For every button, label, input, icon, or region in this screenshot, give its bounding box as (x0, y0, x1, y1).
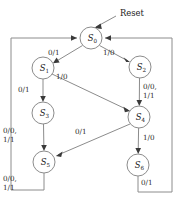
state-sub-S5: 5 (47, 162, 51, 168)
edge-S4-to-S5 (56, 124, 130, 157)
state-node-S2[interactable]: S 2 (129, 56, 151, 78)
state-sub-S3: 3 (46, 113, 50, 119)
edge-S1-to-S3 (40, 79, 46, 102)
edge-S3-to-S5 (41, 124, 47, 151)
edge-S6-to-S0-arrowhead (105, 35, 111, 41)
edge-label-S3-to-S5-line2: 1/1 (3, 135, 15, 144)
state-node-S0[interactable]: S 0 (80, 27, 102, 49)
state-sub-S4: 4 (142, 117, 146, 123)
edge-label-S2-to-S4-line1: 0/0, (143, 82, 157, 91)
edge-S5-to-S0-arrowhead (71, 35, 77, 41)
edge-label-S5-to-S0-line1: 0/0, (3, 174, 17, 183)
state-sub-S1: 1 (46, 68, 50, 74)
edge-label-S6-to-S0: 0/1 (141, 178, 153, 187)
edge-S4-to-S6-arrowhead (135, 148, 141, 154)
fsm-canvas: S 0 S 1 S 2 S 3 S 4 S 5 (0, 0, 182, 207)
edge-S4-to-S6 (135, 128, 141, 154)
state-sub-S2: 2 (143, 67, 147, 73)
reset-arrow (94, 16, 116, 29)
edge-S4-to-S5-line (58, 124, 130, 155)
edge-label-S2-to-S4-line2: 1/1 (143, 91, 155, 100)
edge-S2-to-S4-arrowhead (137, 100, 143, 106)
state-node-S4[interactable]: S 4 (128, 106, 150, 128)
edge-label-S1-to-S4: 1/0 (56, 72, 68, 81)
edge-label-S3-to-S5-line1: 0/0, (3, 126, 17, 135)
edge-label-S0-to-S1: 0/1 (48, 48, 60, 57)
edge-S2-to-S4 (137, 78, 143, 106)
edge-label-S0-to-S2: 1/0 (103, 48, 115, 57)
edge-label-S3-to-S5: 0/0, 1/1 (3, 126, 17, 144)
edge-S4-to-S5-arrowhead (56, 152, 63, 157)
edge-label-S4-to-S6: 1/0 (143, 133, 155, 142)
state-sub-S0: 0 (94, 38, 98, 44)
fsm-diagram: S 0 S 1 S 2 S 3 S 4 S 5 (0, 0, 182, 207)
edge-S3-to-S5-arrowhead (41, 145, 47, 151)
state-node-S3[interactable]: S 3 (32, 102, 54, 124)
edge-S1-to-S3-arrowhead (40, 96, 46, 102)
edge-label-S1-to-S3: 0/1 (18, 85, 30, 94)
edge-label-S5-to-S0-line2: 1/1 (3, 183, 15, 192)
reset-label: Reset (120, 8, 145, 18)
edge-label-S5-to-S0: 0/0, 1/1 (3, 174, 17, 192)
state-node-S6[interactable]: S 6 (127, 154, 149, 176)
state-sub-S6: 6 (141, 165, 145, 171)
state-node-S5[interactable]: S 5 (33, 151, 55, 173)
edge-label-S4-to-S5: 0/1 (75, 127, 87, 136)
state-node-S1[interactable]: S 1 (32, 57, 54, 79)
edge-label-S2-to-S4: 0/0, 1/1 (143, 82, 157, 100)
